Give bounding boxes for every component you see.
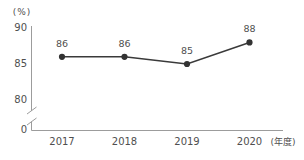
y-tick-label: 85 bbox=[4, 59, 27, 69]
data-point-marker bbox=[59, 54, 65, 60]
y-tick-label: 90 bbox=[4, 23, 27, 33]
data-value-label: 85 bbox=[173, 46, 201, 56]
y-origin-label: 0 bbox=[4, 125, 27, 135]
data-value-label: 88 bbox=[236, 24, 264, 34]
data-value-label: 86 bbox=[111, 39, 139, 49]
x-tick-label: 2019 bbox=[170, 137, 204, 147]
data-point-marker bbox=[246, 39, 252, 45]
y-axis-unit-label: (%) bbox=[7, 7, 37, 17]
data-point-marker bbox=[184, 61, 190, 67]
data-point-marker bbox=[121, 54, 127, 60]
data-series-line bbox=[62, 42, 250, 64]
line-chart: (%) 9085800868685882017201820192020(年度) bbox=[0, 0, 304, 160]
x-axis-unit-label: (年度) bbox=[262, 137, 304, 147]
y-tick-label: 80 bbox=[4, 95, 27, 105]
x-tick-label: 2017 bbox=[45, 137, 79, 147]
data-value-label: 86 bbox=[48, 39, 76, 49]
x-tick-label: 2018 bbox=[108, 137, 142, 147]
